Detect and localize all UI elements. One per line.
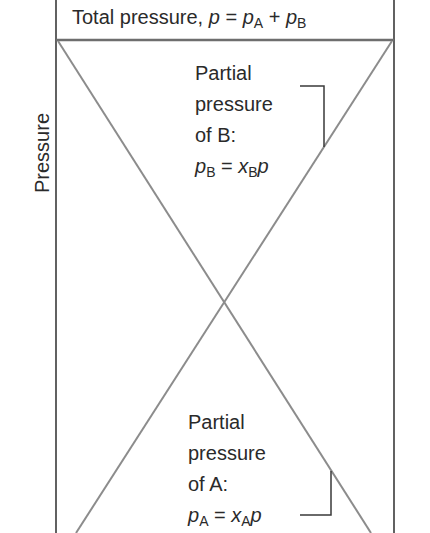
equals: = (220, 6, 243, 28)
eq-x: x (238, 155, 248, 177)
var-pb: p (286, 6, 297, 28)
leader-b (300, 86, 324, 147)
sub-b: B (297, 15, 306, 31)
eq-p: p (195, 155, 206, 177)
var-pa: p (243, 6, 254, 28)
label-a-line1: Partial (188, 407, 266, 438)
sub-a: A (254, 15, 263, 31)
eq-xsub: B (248, 164, 257, 180)
label-a-equation: pA = xAp (188, 500, 266, 531)
y-axis-label: Pressure (29, 133, 55, 193)
title-text: Total pressure, (72, 6, 209, 28)
plus: + (263, 6, 286, 28)
label-a-line2: pressure (188, 438, 266, 469)
label-partial-a: Partial pressure of A: pA = xAp (188, 407, 266, 531)
label-b-line2: pressure (195, 89, 273, 120)
total-pressure-label: Total pressure, p = pA + pB (72, 4, 306, 30)
label-b-line3: of B: (195, 120, 273, 151)
eq-end: p (258, 155, 269, 177)
eq-xsub: A (241, 513, 250, 529)
label-b-equation: pB = xBp (195, 151, 273, 182)
label-b-line1: Partial (195, 58, 273, 89)
eq-x: x (231, 504, 241, 526)
eq-p: p (188, 504, 199, 526)
eq-end: p (251, 504, 262, 526)
eq-mid: = (208, 504, 231, 526)
label-a-line3: of A: (188, 469, 266, 500)
eq-mid: = (215, 155, 238, 177)
label-partial-b: Partial pressure of B: pB = xBp (195, 58, 273, 182)
leader-a (300, 471, 331, 515)
var-p: p (209, 6, 220, 28)
